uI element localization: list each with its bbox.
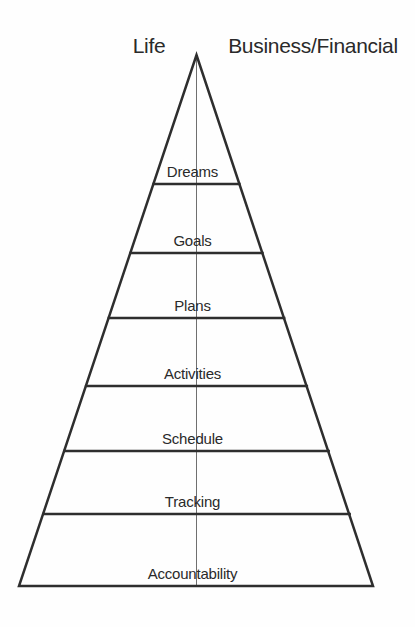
- pyramid-diagram: Life Business/Financial Dreams Goals Pla…: [0, 0, 415, 627]
- life-header-label: Life: [133, 34, 166, 57]
- layer-label-accountability: Accountability: [148, 565, 238, 582]
- layer-label-goals: Goals: [173, 232, 211, 249]
- layer-label-plans: Plans: [174, 297, 211, 314]
- layer-label-activities: Activities: [164, 365, 221, 382]
- pyramid-diagram-page: Life Business/Financial Dreams Goals Pla…: [0, 0, 415, 627]
- layer-label-dreams: Dreams: [167, 163, 218, 180]
- layer-label-tracking: Tracking: [165, 493, 220, 510]
- business-financial-header-label: Business/Financial: [228, 34, 398, 57]
- layer-label-schedule: Schedule: [162, 430, 223, 447]
